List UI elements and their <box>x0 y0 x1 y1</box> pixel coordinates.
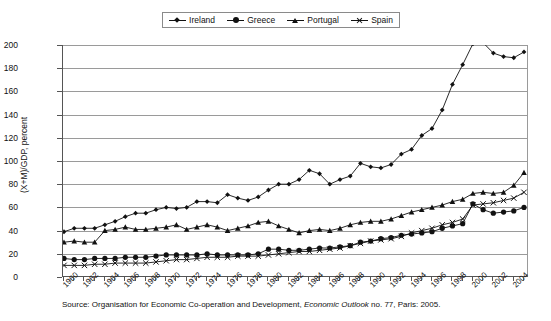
triangle-icon <box>287 16 304 25</box>
y-tick-label: 160 <box>0 87 18 95</box>
legend-item-spain[interactable]: Spain <box>351 16 393 25</box>
x-tick-mark <box>462 277 463 281</box>
y-tick-mark <box>57 207 62 208</box>
x-tick-mark <box>135 277 136 281</box>
y-tick-label: 100 <box>0 157 18 165</box>
legend-label: Portugal <box>307 16 339 25</box>
x-tick-mark <box>523 277 524 281</box>
legend-label: Ireland <box>189 16 215 25</box>
chart-figure: IrelandGreecePortugalSpain (X+M)/GDP, pe… <box>0 0 551 321</box>
x-tick-mark <box>237 277 238 281</box>
x-tick-mark <box>298 277 299 281</box>
y-tick-label: 80 <box>0 180 18 188</box>
x-tick-mark <box>400 277 401 281</box>
x-tick-mark <box>441 277 442 281</box>
y-tick-label: 120 <box>0 134 18 142</box>
y-tick-label: 40 <box>0 227 18 235</box>
x-tick-mark <box>73 277 74 281</box>
x-tick-mark <box>339 277 340 281</box>
x-tick-mark <box>380 277 381 281</box>
y-tick-mark <box>57 91 62 92</box>
y-tick-mark <box>57 231 62 232</box>
y-tick-label: 60 <box>0 203 18 211</box>
y-tick-mark <box>57 68 62 69</box>
source-italic: Economic Outlook <box>304 300 369 309</box>
y-tick-label: 180 <box>0 64 18 72</box>
source-note: Source: Organisation for Economic Co-ope… <box>62 300 440 309</box>
series-layer <box>63 45 529 277</box>
x-tick-mark <box>114 277 115 281</box>
x-tick-mark <box>421 277 422 281</box>
x-tick-mark <box>503 277 504 281</box>
chart-legend: IrelandGreecePortugalSpain <box>162 12 400 28</box>
x-tick-mark <box>94 277 95 281</box>
x-tick-mark <box>175 277 176 281</box>
y-tick-mark <box>57 115 62 116</box>
y-tick-mark <box>57 138 62 139</box>
series-ireland <box>63 45 526 234</box>
x-icon <box>351 16 368 25</box>
source-suffix: no. 77, Paris: 2005. <box>369 300 441 309</box>
circle-icon <box>227 16 244 25</box>
x-tick-mark <box>196 277 197 281</box>
x-tick-mark <box>216 277 217 281</box>
legend-item-greece[interactable]: Greece <box>227 16 275 25</box>
x-tick-mark <box>359 277 360 281</box>
y-axis-title: (X+M)/GDP, percent <box>19 85 29 225</box>
plot-area <box>62 45 528 277</box>
x-tick-mark <box>155 277 156 281</box>
y-tick-mark <box>57 45 62 46</box>
y-tick-mark <box>57 161 62 162</box>
y-tick-label: 20 <box>0 250 18 258</box>
y-tick-label: 200 <box>0 41 18 49</box>
x-tick-mark <box>482 277 483 281</box>
y-tick-label: 0 <box>0 273 18 281</box>
x-tick-mark <box>257 277 258 281</box>
diamond-icon <box>169 16 186 25</box>
legend-label: Greece <box>247 16 275 25</box>
legend-item-ireland[interactable]: Ireland <box>169 16 215 25</box>
legend-label: Spain <box>371 16 393 25</box>
y-tick-label: 140 <box>0 111 18 119</box>
x-tick-mark <box>278 277 279 281</box>
legend-item-portugal[interactable]: Portugal <box>287 16 339 25</box>
x-tick-mark <box>319 277 320 281</box>
y-tick-mark <box>57 277 62 278</box>
y-tick-mark <box>57 254 62 255</box>
source-prefix: Source: Organisation for Economic Co-ope… <box>62 300 304 309</box>
y-tick-mark <box>57 184 62 185</box>
